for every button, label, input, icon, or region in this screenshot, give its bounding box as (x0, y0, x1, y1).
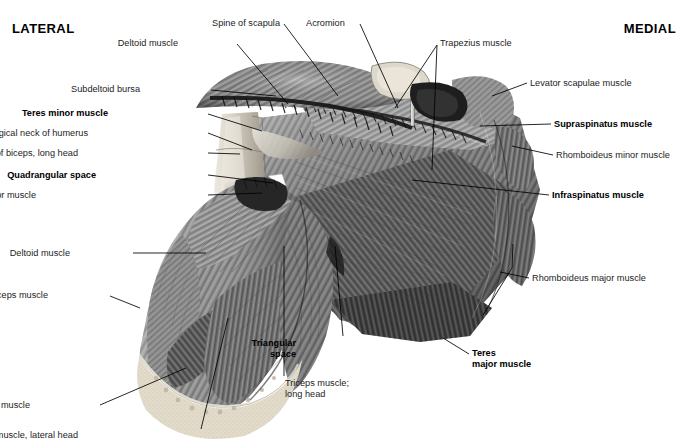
label-triangular-space: Triangularspace (252, 338, 296, 359)
label-acromion: Acromion (306, 18, 345, 29)
label-tendon-of-pectoralis-major-muscle: Tendon of pectoralis major muscle (0, 190, 36, 201)
label-deltoid-muscle-top: Deltoid muscle (118, 38, 178, 49)
label-subdeltoid-bursa: Subdeltoid bursa (71, 84, 140, 95)
label-surgical-neck-of-humerus: Surgical neck of humerus (0, 128, 88, 139)
orientation-label-medial: MEDIAL (624, 21, 676, 36)
label-infraspinatus-muscle: Infraspinatus muscle (552, 190, 644, 201)
label-trapezius-muscle: Trapezius muscle (440, 38, 512, 49)
label-teres-minor-muscle: Teres minor muscle (22, 108, 108, 119)
label-quadrangular-space: Quadrangular space (7, 170, 96, 181)
leader-biceps-muscle (110, 296, 140, 308)
label-brachialis-muscle: Brachialis muscle (0, 400, 30, 411)
label-teres-major-muscle: Teresmajor muscle (472, 348, 531, 369)
label-tendon-of-biceps-long-head: Tendon of biceps, long head (0, 148, 78, 159)
label-triceps-muscle-long-head: Triceps muscle;long head (285, 378, 349, 399)
label-spine-of-scapula: Spine of scapula (212, 18, 280, 29)
label-deltoid-muscle-arm: Deltoid muscle (10, 248, 70, 259)
label-rhomboideus-major-muscle: Rhomboideus major muscle (532, 273, 646, 284)
label-biceps-muscle: Biceps muscle (0, 290, 48, 301)
label-supraspinatus-muscle: Supraspinatus muscle (554, 119, 652, 130)
label-triceps-muscle-lateral-head: Triceps muscle, lateral head (0, 430, 78, 441)
label-rhomboideus-minor-muscle: Rhomboideus minor muscle (556, 150, 670, 161)
arm-region (137, 176, 344, 439)
anatomy-figure: LATERAL MEDIAL Spine of scapulaAcromionD… (0, 0, 686, 448)
orientation-label-lateral: LATERAL (12, 21, 75, 36)
label-levator-scapulae-muscle: Levator scapulae muscle (530, 78, 632, 89)
leader-teres-major-muscle (443, 338, 469, 354)
